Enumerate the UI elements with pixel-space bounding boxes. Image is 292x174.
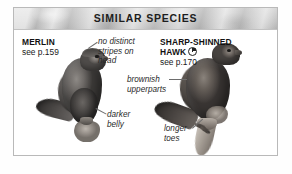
leader-line-brownish-upperparts bbox=[169, 79, 187, 80]
merlin-foot bbox=[80, 117, 93, 125]
callout-longer-toes: longer toes bbox=[164, 124, 187, 143]
callout-line-1: brownish bbox=[127, 75, 166, 85]
merlin-page-ref[interactable]: see p.159 bbox=[22, 47, 59, 58]
similar-species-panel: SIMILAR SPECIES bbox=[13, 7, 278, 156]
callout-no-distinct-stripes: no distinct stripes on head bbox=[98, 37, 135, 66]
page-root: SIMILAR SPECIES bbox=[0, 0, 292, 174]
panel-title: SIMILAR SPECIES bbox=[14, 8, 277, 29]
hawk-name-line2-text: HAWK bbox=[160, 47, 186, 57]
callout-line-2: belly bbox=[107, 120, 130, 130]
panel-body: MERLIN see p.159 SHARP-SHINNED HAWK see … bbox=[14, 30, 277, 156]
hawk-page-ref[interactable]: see p.170 bbox=[160, 57, 232, 68]
panel-header-band: SIMILAR SPECIES bbox=[14, 8, 277, 30]
species-label-merlin: MERLIN see p.159 bbox=[22, 37, 59, 58]
callout-line-2: toes bbox=[164, 134, 187, 144]
hawk-beak bbox=[235, 50, 242, 55]
quarter-pie-season-icon bbox=[188, 47, 197, 56]
callout-line-2: stripes on bbox=[98, 47, 135, 57]
species-label-sharp-shinned-hawk: SHARP-SHINNED HAWK see p.170 bbox=[160, 37, 232, 68]
callout-line-1: no distinct bbox=[98, 37, 135, 47]
hawk-name-line2: HAWK bbox=[160, 47, 232, 57]
callout-line-3: head bbox=[98, 56, 135, 66]
hawk-name-line1: SHARP-SHINNED bbox=[160, 37, 232, 47]
callout-darker-belly: darker belly bbox=[107, 110, 130, 129]
merlin-name: MERLIN bbox=[22, 37, 59, 47]
callout-line-1: darker bbox=[107, 110, 130, 120]
callout-brownish-upperparts: brownish upperparts bbox=[127, 75, 166, 94]
callout-line-1: longer bbox=[164, 124, 187, 134]
callout-line-2: upperparts bbox=[127, 85, 166, 95]
